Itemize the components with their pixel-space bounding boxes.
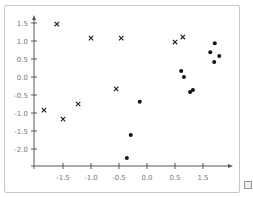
image-placeholder-icon xyxy=(244,181,252,189)
x-tick-label: 0.5 xyxy=(169,174,180,182)
dot-marker xyxy=(213,41,217,45)
x-marker xyxy=(89,36,93,40)
y-tick-label: -1.0 xyxy=(14,110,28,118)
y-tick-label: 0.5 xyxy=(17,56,28,64)
y-tick-label: -1.5 xyxy=(14,128,28,136)
x-marker xyxy=(119,36,123,40)
y-tick-label: -0.5 xyxy=(14,92,28,100)
x-marker xyxy=(114,87,118,91)
dot-marker xyxy=(138,100,142,104)
x-marker xyxy=(173,40,177,44)
dot-marker xyxy=(182,75,186,79)
x-tick-label: -1.0 xyxy=(84,174,98,182)
dot-marker xyxy=(125,156,129,160)
dot-marker xyxy=(212,60,216,64)
x-axis-arrow xyxy=(228,164,233,168)
x-marker xyxy=(42,108,46,112)
dot-marker xyxy=(191,88,195,92)
x-marker xyxy=(55,22,59,26)
y-axis-arrow xyxy=(32,15,36,20)
y-tick-label: -2.0 xyxy=(14,146,28,154)
dot-marker xyxy=(208,50,212,54)
scatter-plot: -1.5-1.0-0.50.00.51.51.51.00.50.0-0.5-1.… xyxy=(0,0,253,197)
dot-marker xyxy=(129,133,133,137)
y-tick-label: 1.5 xyxy=(17,20,28,28)
x-marker xyxy=(181,35,185,39)
x-tick-label: -0.5 xyxy=(112,174,126,182)
y-tick-label: 0.0 xyxy=(17,74,28,82)
x-tick-label: -1.5 xyxy=(56,174,70,182)
x-marker xyxy=(76,102,80,106)
x-marker xyxy=(61,117,65,121)
y-tick-label: 1.0 xyxy=(17,38,28,46)
dot-marker xyxy=(179,69,183,73)
x-tick-label: 0.0 xyxy=(141,174,152,182)
x-tick-label: 1.5 xyxy=(197,174,208,182)
dot-marker xyxy=(217,54,221,58)
